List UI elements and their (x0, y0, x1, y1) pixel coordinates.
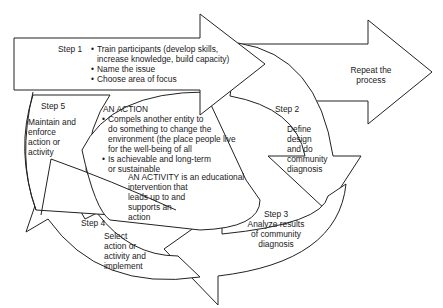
step2-line: design (287, 134, 328, 144)
action-bullets: Compels another entity to do something t… (102, 114, 236, 174)
step5-line: activity (28, 147, 76, 157)
step5-text: Maintain and enforce action or activity (28, 117, 76, 157)
repeat-line: Repeat the (336, 65, 406, 75)
step2-line: and do (287, 144, 328, 154)
action-line: Is achievable and long-term (108, 154, 236, 164)
step3-label: Step 3 (236, 209, 316, 219)
step1-label: Step 1 (58, 44, 82, 54)
action-line: environment (the place people live (108, 134, 236, 144)
step5-label: Step 5 (41, 101, 65, 111)
activity-line: AN ACTIVITY is an educational (128, 172, 244, 182)
step3-line: of community (236, 229, 316, 239)
activity-text: AN ACTIVITY is an educational interventi… (128, 172, 244, 222)
step4-label: Step 4 (81, 218, 105, 228)
step1-bullet-text: increase knowledge, build capacity) (97, 54, 229, 64)
step1-bullet: Choose area of focus (91, 74, 229, 84)
action-bullet: Is achievable and long-term or sustainab… (102, 154, 236, 174)
step2-line: community (287, 154, 328, 164)
action-bullet: Compels another entity to do something t… (102, 114, 236, 154)
activity-line: intervention that (128, 182, 244, 192)
step5-line: Maintain and (28, 117, 76, 127)
step1-bullet: Name the issue (91, 64, 229, 74)
step2-label: Step 2 (275, 104, 299, 114)
step2-text: Define design and do community diagnosis (287, 124, 328, 174)
action-line: for the well-being of all (108, 144, 236, 154)
step1-bullet-text: Train participants (develop skills, (97, 44, 218, 54)
step1-bullets: Train participants (develop skills,incre… (91, 44, 229, 84)
action-title: AN ACTION (103, 104, 148, 114)
step3-line: diagnosis (236, 239, 316, 249)
step1-bullet: Train participants (develop skills,incre… (91, 44, 229, 64)
step4-text: Select action or activity and implement (104, 231, 146, 271)
activity-line: leads up to and (128, 192, 244, 202)
step3-text: Step 3 Analyze results of community diag… (236, 209, 316, 249)
step2-line: Define (287, 124, 328, 134)
step5-line: enforce (28, 127, 76, 137)
step2-line: diagnosis (287, 164, 328, 174)
action-line: do something to change the (108, 124, 236, 134)
step5-line: action or (28, 137, 76, 147)
repeat-text: Repeat the process (336, 65, 406, 85)
activity-line: supports an (128, 202, 244, 212)
step4-line: action or (104, 241, 146, 251)
step4-line: activity and (104, 251, 146, 261)
action-line: Compels another entity to (108, 114, 236, 124)
activity-line: action (128, 212, 244, 222)
repeat-line: process (336, 75, 406, 85)
step4-line: Select (104, 231, 146, 241)
step4-line: implement (104, 261, 146, 271)
step3-line: Analyze results (236, 219, 316, 229)
